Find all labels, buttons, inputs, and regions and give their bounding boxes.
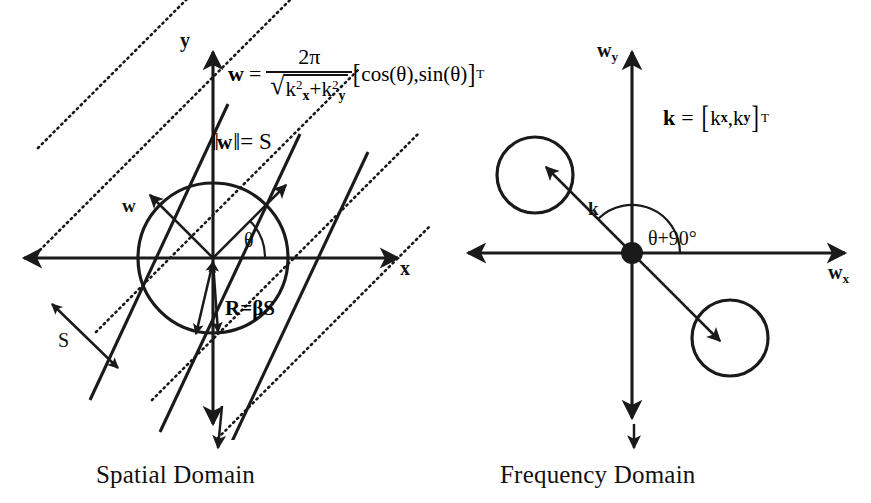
formula-k: k = [ kx,ky ] T — [663, 105, 769, 131]
formula-k-lhs: k — [663, 105, 675, 131]
formula-w-bracket-close: ] — [468, 62, 476, 86]
formula-k-k1-sub: x — [721, 110, 728, 126]
frequency-domain-caption: Frequency Domain — [500, 462, 696, 487]
formula-k-bracket-close: ] — [752, 105, 759, 131]
formula-k-k2: k — [733, 106, 744, 131]
formula-k-k1: k — [710, 106, 721, 131]
den-k2-sub: y — [338, 89, 345, 104]
radius-s: S — [263, 296, 275, 320]
spatial-caption-pointer — [218, 406, 222, 448]
formula-w-equals: = — [247, 61, 266, 87]
theta-plus-90-label: θ+90° — [648, 228, 697, 248]
norm-w-symbol: w — [216, 130, 233, 155]
radius-symbol: R — [225, 296, 240, 320]
den-k1: k — [286, 77, 297, 101]
frequency-y-axis-symbol: w — [597, 39, 611, 61]
den-k2: k — [321, 77, 332, 101]
formula-w-transpose: T — [476, 66, 484, 82]
formula-k-k2-sub: y — [744, 110, 751, 126]
den-plus: + — [310, 77, 322, 101]
vector-w-label: w — [122, 196, 136, 215]
frequency-x-axis-label: wx — [828, 262, 849, 285]
frequency-x-axis-symbol: w — [828, 261, 842, 283]
den-k1-sub: x — [303, 89, 310, 104]
formula-k-equals: = — [675, 105, 699, 131]
spatial-domain-caption: Spatial Domain — [96, 462, 255, 487]
formula-w-denominator: √ k2x+k2y — [266, 73, 352, 104]
formula-k-transpose: T — [761, 110, 769, 126]
frequency-lobe-upper-left — [497, 137, 573, 213]
formula-w-numerator: 2π — [290, 44, 328, 71]
norm-w-label: ‖ w ‖ = S — [212, 128, 272, 156]
norm-equals-s: = S — [237, 129, 272, 155]
radical-group: √ k2x+k2y — [270, 74, 348, 104]
radius-equals: = — [240, 296, 252, 320]
formula-w: w = 2π √ k2x+k2y [ cos(θ),sin(θ) ] T — [228, 44, 484, 105]
spacing-label: S — [58, 330, 69, 350]
frequency-lobe-lower-right — [692, 300, 768, 376]
formula-w-bracket-open: [ — [353, 62, 361, 86]
vector-k-label: k — [588, 199, 599, 218]
spatial-x-axis-label: x — [400, 258, 410, 278]
vector-k-negative-arrow — [632, 253, 720, 341]
figure-root: y x w θ S R=βS ‖ w ‖ = S w = 2π √ k2x+k2… — [0, 0, 871, 503]
frequency-y-axis-label: wy — [597, 40, 618, 63]
radicand: k2x+k2y — [284, 74, 349, 104]
radius-label: R=βS — [225, 296, 275, 321]
radical-sign: √ — [270, 74, 284, 104]
formula-w-lhs: w — [228, 61, 247, 87]
theta-label: θ — [244, 230, 254, 250]
formula-k-bracket-open: [ — [701, 105, 708, 131]
formula-w-fraction: 2π √ k2x+k2y — [266, 44, 352, 105]
spatial-y-axis-label: y — [180, 30, 190, 50]
formula-w-bracket-body: cos(θ),sin(θ) — [361, 62, 467, 87]
radius-beta: β — [252, 296, 263, 320]
frequency-x-axis-subscript: x — [842, 271, 849, 286]
frequency-y-axis-subscript: y — [611, 49, 618, 64]
